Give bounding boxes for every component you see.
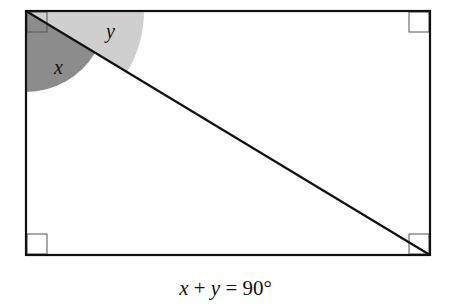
- diagonal-line: [26, 11, 430, 255]
- caption-result: = 90°: [220, 276, 272, 300]
- right-angle-marker-top-right: [409, 12, 429, 32]
- angle-label-y: y: [104, 20, 115, 43]
- rectangle-diagram: y x: [0, 0, 451, 270]
- caption-plus: +: [188, 276, 210, 300]
- right-angle-marker-bottom-left: [27, 234, 47, 254]
- caption-var-y: y: [211, 276, 220, 300]
- angle-label-x: x: [53, 56, 63, 78]
- equation-caption: x + y = 90°: [0, 276, 451, 301]
